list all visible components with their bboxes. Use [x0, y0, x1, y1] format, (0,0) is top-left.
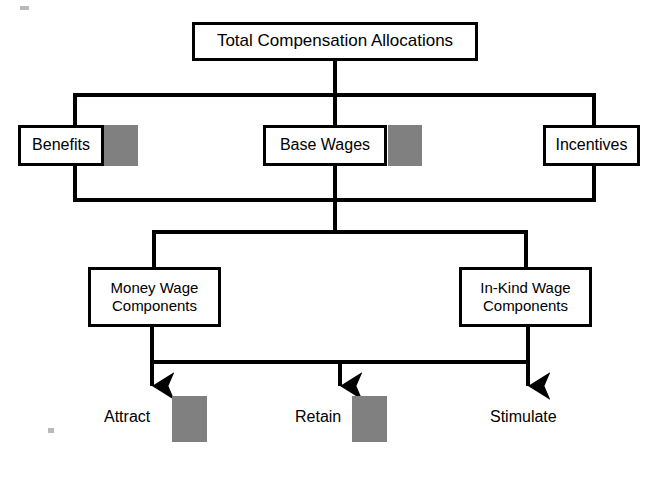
swatch-retain [352, 396, 387, 442]
node-label-base-wages: Base Wages [274, 136, 376, 155]
outcome-label-retain: Retain [295, 408, 341, 426]
connector-lines [0, 0, 650, 477]
scan-speck-bottom-left [48, 428, 54, 433]
swatch-attract [172, 396, 207, 442]
swatch-base-wages [388, 125, 422, 166]
node-incentives[interactable]: Incentives [543, 125, 640, 166]
node-label-benefits: Benefits [26, 136, 96, 155]
node-label-incentives: Incentives [549, 136, 633, 155]
node-label-total-compensation-allocations: Total Compensation Allocations [211, 31, 459, 51]
node-label-in-kind-wage-components: In-Kind Wage Components [474, 279, 576, 314]
node-label-money-wage-components: Money Wage Components [105, 279, 205, 314]
node-total-compensation-allocations[interactable]: Total Compensation Allocations [192, 22, 478, 61]
scan-speck-top-left [20, 6, 29, 10]
node-money-wage-components[interactable]: Money Wage Components [88, 267, 221, 327]
node-benefits[interactable]: Benefits [18, 125, 104, 166]
outcome-label-stimulate: Stimulate [490, 408, 557, 426]
swatch-benefits [104, 125, 138, 166]
diagram-canvas: Total Compensation Allocations Benefits … [0, 0, 650, 477]
node-base-wages[interactable]: Base Wages [263, 125, 387, 166]
outcome-label-attract: Attract [104, 408, 150, 426]
node-in-kind-wage-components[interactable]: In-Kind Wage Components [459, 267, 592, 327]
